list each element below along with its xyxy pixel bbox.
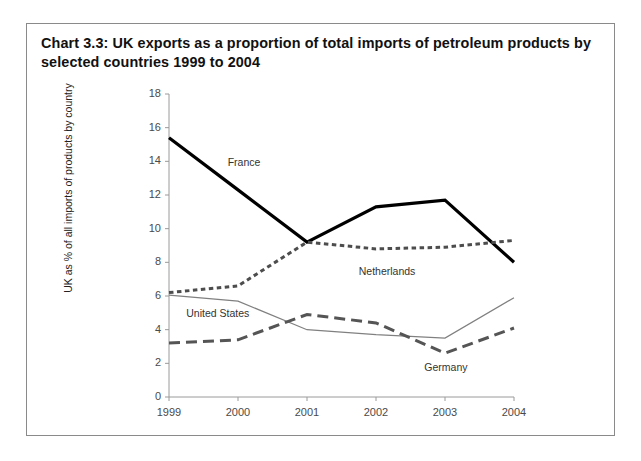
series-label-netherlands: Netherlands xyxy=(359,265,416,277)
chart-svg xyxy=(27,24,616,435)
page-root: Chart 3.3: UK exports as a proportion of… xyxy=(0,0,641,461)
y-tick-label: 10 xyxy=(121,222,161,234)
y-tick-label: 8 xyxy=(121,255,161,267)
y-tick-label: 6 xyxy=(121,289,161,301)
series-label-france: France xyxy=(228,156,261,168)
series-label-germany: Germany xyxy=(424,361,467,373)
y-tick-label: 4 xyxy=(121,323,161,335)
x-tick-label: 2000 xyxy=(215,406,261,418)
x-tick-label: 2004 xyxy=(491,406,537,418)
series-line-netherlands xyxy=(169,240,514,292)
y-tick-label: 14 xyxy=(121,154,161,166)
series-line-france xyxy=(169,138,514,262)
chart-figure-frame: Chart 3.3: UK exports as a proportion of… xyxy=(26,23,615,436)
y-tick-label: 16 xyxy=(121,121,161,133)
x-tick-label: 2001 xyxy=(284,406,330,418)
y-tick-label: 0 xyxy=(121,390,161,402)
x-tick-label: 2002 xyxy=(353,406,399,418)
plot-area: UK as % of all imports of products by co… xyxy=(27,24,616,435)
x-tick-label: 1999 xyxy=(146,406,192,418)
y-tick-label: 12 xyxy=(121,188,161,200)
y-tick-label: 2 xyxy=(121,356,161,368)
series-label-united-states: United States xyxy=(186,307,249,319)
y-tick-label: 18 xyxy=(121,87,161,99)
x-axis-ticks xyxy=(169,397,514,401)
series-lines-group xyxy=(169,138,514,353)
series-line-germany xyxy=(169,315,514,354)
y-axis-ticks xyxy=(165,94,169,397)
x-tick-label: 2003 xyxy=(422,406,468,418)
